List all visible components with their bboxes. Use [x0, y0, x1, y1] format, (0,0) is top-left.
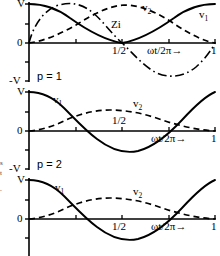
- panel-2-x-axis-title: ωt/2π→: [151, 133, 186, 144]
- panel-3-x-label-half: 1/2: [112, 221, 126, 232]
- panel-3-x-label-one: 1: [211, 221, 217, 232]
- panel-3-v1-sub: 1: [61, 187, 65, 196]
- panel-3-v2-base: v: [133, 185, 139, 197]
- panel-1-y-label-zero: 0: [17, 37, 23, 48]
- panel-2-v2-sub: 2: [139, 103, 143, 112]
- panel-3-x-axis-title: ωt/2π→: [151, 221, 186, 232]
- panel-1-case-label: p = 1: [37, 71, 62, 82]
- panel-1-v1-base: v: [199, 8, 205, 20]
- curve-v1: [29, 4, 215, 43]
- panel-1-y-label-v: V: [17, 0, 25, 9]
- plot-panel-p1: V 0 -V 1/2 1 ωt/2π→ p = 1 v1 v2 Zi: [0, 0, 220, 86]
- panel-3-v1-base: v: [55, 181, 61, 193]
- panel-3-plot-area: [0, 172, 220, 256]
- panel-1-x-label-half: 1/2: [112, 45, 126, 56]
- panel-1-curve-label-v1: v1: [199, 9, 208, 20]
- panel-1-v2-base: v: [142, 1, 148, 13]
- panel-2-case-label: p = 2: [37, 159, 62, 170]
- panel-3-x-axis-arrow-icon: →: [175, 220, 186, 232]
- panel-2-plot-area: [0, 86, 220, 172]
- panel-3-curve-label-v2: v2: [133, 186, 142, 197]
- panel-2-y-label-zero: 0: [17, 125, 23, 136]
- plot-panel-third: V 0 1/2 1 ωt/2π→ v1 v2: [0, 172, 220, 256]
- panel-2-x-axis-title-text: ωt/2π: [151, 132, 175, 144]
- panel-2-x-label-one: 1: [211, 133, 217, 144]
- panel-1-x-label-one: 1: [211, 45, 217, 56]
- panel-1-x-axis-title: ωt/2π→: [147, 45, 182, 56]
- panel-3-curve-label-v1: v1: [55, 182, 64, 193]
- panel-1-curve-label-v2: v2: [142, 2, 151, 13]
- figure-root: s t . V 0 -V: [0, 0, 220, 256]
- panel-2-y-label-v: V: [17, 86, 25, 97]
- panel-2-v1-base: v: [53, 93, 59, 105]
- panel-3-v2-sub: 2: [139, 191, 143, 200]
- plot-panel-p2: V 0 -V 1/2 1 ωt/2π→ p = 2 v1 v2: [0, 86, 220, 172]
- panel-2-curve-label-v1: v1: [53, 94, 62, 105]
- panel-2-x-axis-arrow-icon: →: [175, 132, 186, 144]
- panel-1-x-axis-arrow-icon: →: [171, 44, 182, 56]
- panel-2-v1-sub: 1: [59, 99, 63, 108]
- panel-1-v2-sub: 2: [148, 7, 152, 16]
- panel-3-y-label-v: V: [17, 174, 25, 185]
- panel-2-x-label-half: 1/2: [112, 115, 126, 126]
- panel-1-plot-area: [0, 0, 220, 86]
- panel-1-v1-sub: 1: [205, 14, 209, 23]
- panel-3-y-label-zero: 0: [17, 213, 23, 224]
- panel-1-curve-label-zi: Zi: [111, 19, 121, 30]
- panel-3-x-axis-title-text: ωt/2π: [151, 220, 175, 232]
- panel-2-curve-label-v2: v2: [133, 98, 142, 109]
- panel-2-v2-base: v: [133, 97, 139, 109]
- panel-1-x-axis-title-text: ωt/2π: [147, 44, 171, 56]
